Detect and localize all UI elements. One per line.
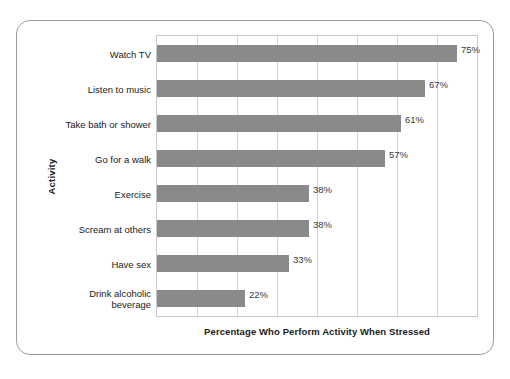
bar-value-label: 38%: [309, 219, 332, 230]
bar: [157, 255, 289, 272]
y-axis-title: Activity: [46, 137, 57, 217]
chart-card: Activity Watch TV75%Listen to music67%Ta…: [16, 20, 494, 355]
bar: [157, 220, 309, 237]
bar-row: Have sex33%: [157, 246, 477, 281]
bar-value-label: 33%: [289, 254, 312, 265]
bar-row: Drink alcoholicbeverage22%: [157, 281, 477, 316]
category-label: Take bath or shower: [21, 119, 151, 130]
bar-value-label: 61%: [401, 114, 424, 125]
bar: [157, 290, 245, 307]
x-axis-title: Percentage Who Perform Activity When Str…: [156, 326, 478, 337]
plot-area: Watch TV75%Listen to music67%Take bath o…: [156, 35, 478, 317]
bar-row: Listen to music67%: [157, 71, 477, 106]
bar-value-label: 67%: [425, 79, 448, 90]
category-label: Drink alcoholicbeverage: [21, 288, 151, 310]
bar-value-label: 38%: [309, 184, 332, 195]
bar-value-label: 57%: [385, 149, 408, 160]
bar-row: Exercise38%: [157, 176, 477, 211]
bar: [157, 150, 385, 167]
bar: [157, 115, 401, 132]
category-label: Exercise: [21, 189, 151, 200]
bar-value-label: 22%: [245, 289, 268, 300]
bar-value-label: 75%: [457, 44, 480, 55]
category-label: Watch TV: [21, 49, 151, 60]
bar-row: Take bath or shower61%: [157, 106, 477, 141]
category-label: Scream at others: [21, 224, 151, 235]
category-label: Listen to music: [21, 84, 151, 95]
bar-row: Watch TV75%: [157, 36, 477, 71]
category-label: Have sex: [21, 259, 151, 270]
bar-row: Scream at others38%: [157, 211, 477, 246]
bar: [157, 45, 457, 62]
bar: [157, 80, 425, 97]
bar-row: Go for a walk57%: [157, 141, 477, 176]
category-label: Go for a walk: [21, 154, 151, 165]
bar: [157, 185, 309, 202]
